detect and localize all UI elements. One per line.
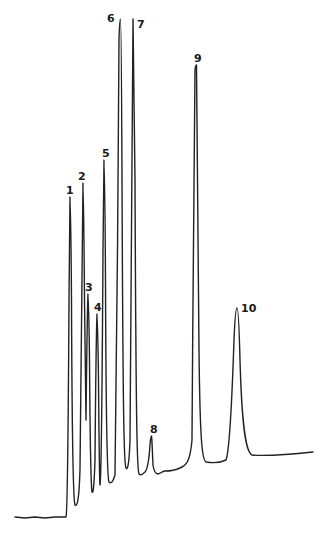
peak-label-7: 7: [137, 18, 145, 31]
peak-label-6: 6: [107, 12, 115, 25]
peak-label-8: 8: [150, 423, 158, 436]
chromatogram: 1 2 3 4 5 6 7 8 9 10: [0, 0, 329, 535]
peak-labels: 1 2 3 4 5 6 7 8 9 10: [66, 12, 257, 436]
chromatogram-trace: [15, 19, 313, 518]
peak-label-1: 1: [66, 184, 74, 197]
peak-label-5: 5: [102, 147, 110, 160]
peak-label-9: 9: [194, 52, 202, 65]
peak-label-3: 3: [85, 281, 93, 294]
peak-label-4: 4: [94, 301, 102, 314]
peak-label-2: 2: [78, 170, 86, 183]
peak-label-10: 10: [241, 302, 257, 315]
